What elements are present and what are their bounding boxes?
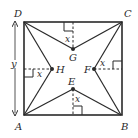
right-angle-g [64,22,73,31]
point-g [71,47,75,51]
point-h [50,67,54,71]
label-f: F [83,64,92,75]
label-y: y [10,58,17,69]
label-x-h: x [37,69,42,79]
right-angle-h [24,69,33,77]
label-c: C [124,8,132,19]
label-x-g: x [65,34,70,44]
label-g: G [69,52,77,63]
right-angle-e [73,106,82,115]
right-angle-f [113,61,122,69]
label-e: E [67,76,76,87]
label-x-f: x [100,58,105,68]
label-a: A [14,121,22,132]
point-e [71,87,75,91]
square-diagram: D C B A G H F E x x x x y [0,0,138,138]
point-f [92,67,96,71]
label-b: B [120,121,128,132]
label-d: D [13,8,22,19]
label-x-e: x [75,94,80,104]
label-h: H [55,64,65,75]
